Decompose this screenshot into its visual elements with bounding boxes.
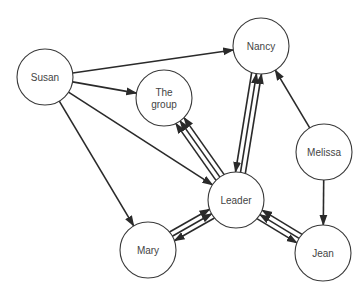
edge-leader-to-jean xyxy=(257,219,297,243)
edges-layer xyxy=(59,50,323,243)
node-jean: Jean xyxy=(295,225,351,281)
edge-melissa-to-nancy xyxy=(275,70,309,128)
node-label: Mary xyxy=(137,245,159,256)
edge-mary-to-leader xyxy=(172,214,211,236)
node-mary: Mary xyxy=(120,222,176,278)
node-label: Nancy xyxy=(247,41,275,52)
node-label: group xyxy=(151,99,177,110)
edge-leader-to-group xyxy=(176,123,216,180)
node-label: Jean xyxy=(312,248,334,259)
edge-susan-to-mary xyxy=(59,101,133,226)
node-susan: Susan xyxy=(17,49,73,105)
edge-susan-to-nancy xyxy=(73,50,234,73)
node-group: Thegroup xyxy=(136,70,192,126)
node-label: Melissa xyxy=(307,147,341,158)
edge-leader-to-mary xyxy=(174,218,214,241)
edge-susan-to-group xyxy=(73,82,137,93)
node-nancy: Nancy xyxy=(233,18,289,74)
node-label: The xyxy=(155,87,173,98)
node-melissa: Melissa xyxy=(296,124,352,180)
node-label: Susan xyxy=(31,72,59,83)
diagram-svg: SusanThegroupNancyMelissaLeaderMaryJean xyxy=(0,0,364,291)
edge-jean-to-leader xyxy=(260,215,299,239)
node-label: Leader xyxy=(220,195,252,206)
node-leader: Leader xyxy=(208,172,264,228)
edge-leader-to-group xyxy=(184,118,224,175)
edge-jean-to-leader xyxy=(262,210,302,234)
edge-mary-to-leader xyxy=(170,209,210,232)
sociogram-diagram: SusanThegroupNancyMelissaLeaderMaryJean xyxy=(0,0,364,291)
